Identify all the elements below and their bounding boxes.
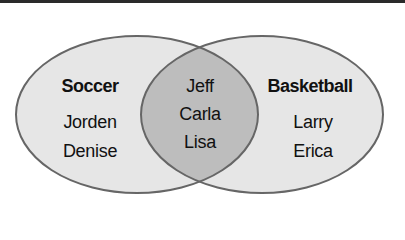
soccer-member: Denise: [63, 137, 117, 165]
overlap-member: Lisa: [184, 128, 216, 156]
soccer-title: Soccer: [61, 76, 118, 97]
basketball-title: Basketball: [267, 76, 352, 97]
soccer-member: Jorden: [63, 108, 116, 136]
basketball-member: Erica: [293, 137, 333, 165]
overlap-member: Carla: [179, 100, 221, 128]
overlap-member: Jeff: [186, 72, 214, 100]
basketball-member: Larry: [293, 108, 333, 136]
